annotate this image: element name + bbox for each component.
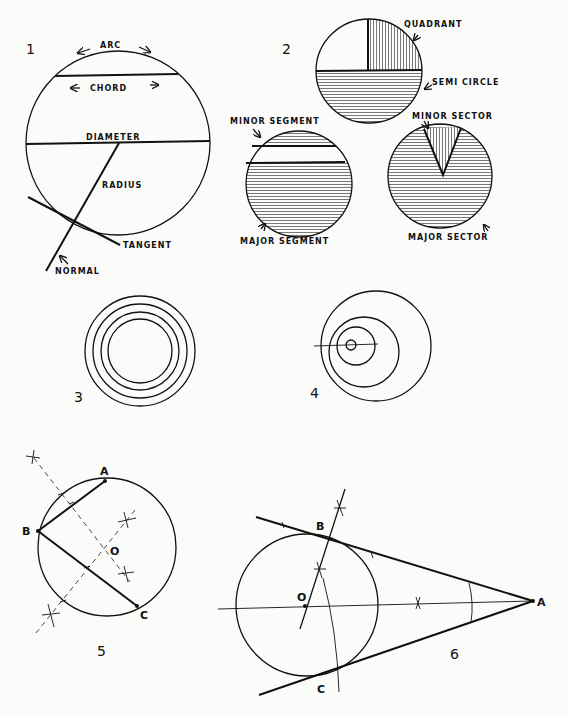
major-sector-label: MAJOR SECTOR [408, 233, 488, 242]
arc-arrow-right-icon [139, 47, 150, 52]
arc-mark-icon [416, 597, 420, 609]
arc-arrow-left-icon [78, 49, 90, 53]
radius-normal-line [46, 143, 119, 271]
arc-mark-icon [314, 562, 326, 578]
quadrant-semicircle-circle [316, 19, 422, 123]
figure-number-4: 4 [310, 385, 319, 401]
figure-number-1: 1 [26, 41, 35, 57]
normal-arrow-icon [60, 256, 68, 264]
point-c-label: C [317, 683, 325, 696]
tangent-line [28, 197, 120, 245]
radius-line-ob [300, 489, 345, 629]
figure-5-circumcircle-construction: A B C O 5 [22, 450, 176, 659]
geometry-diagram: 1 ARC CHORD DIAMETER RADIUS TANGENT NORM… [0, 0, 569, 715]
minor-sector-label: MINOR SECTOR [412, 112, 493, 121]
center-line-oa [218, 601, 533, 609]
chord-line [55, 74, 178, 76]
circle [236, 534, 378, 676]
tangent-label: TANGENT [123, 241, 172, 250]
point-a-label: A [537, 596, 546, 609]
point-b-label: B [316, 520, 324, 533]
sectors-circle [385, 120, 495, 230]
point-b-label: B [22, 525, 30, 538]
figure-number-2: 2 [282, 41, 291, 57]
minor-segment-label: MINOR SEGMENT [230, 117, 320, 126]
figure-4-eccentric-circles: 4 [310, 291, 431, 401]
figure-number-5: 5 [97, 643, 106, 659]
figure-1-circle-parts: 1 ARC CHORD DIAMETER RADIUS TANGENT NORM… [26, 41, 210, 276]
semi-circle-arrow-icon [425, 85, 432, 89]
major-sector-arrow-icon [484, 225, 488, 231]
tangent-line-ac [259, 601, 533, 695]
figure-number-3: 3 [74, 389, 83, 405]
figure-6-tangents-from-point: B A C O 6 [218, 489, 546, 696]
normal-label: NORMAL [55, 267, 100, 276]
construction-arc [323, 578, 339, 692]
chord-label: CHORD [90, 84, 127, 93]
figure-3-concentric-circles: 3 [74, 296, 195, 406]
semi-circle-label: SEMI CIRCLE [432, 78, 499, 87]
diameter-label: DIAMETER [86, 133, 140, 142]
point-a-label: A [100, 465, 109, 478]
figure-number-6: 6 [450, 646, 459, 662]
figure-2-circle-regions: 2 QUADRANT SEMI CIRCLE MINOR SEGMENT MAJ… [230, 19, 499, 246]
major-segment-label: MAJOR SEGMENT [240, 237, 329, 246]
segments-circle [240, 125, 360, 243]
arc-label: ARC [100, 41, 121, 50]
quadrant-arrow-icon [414, 35, 418, 40]
arc-mark-icon [26, 450, 40, 464]
tangent-line-ab [256, 517, 533, 601]
arc-mark-icon [42, 604, 60, 627]
radius-label: RADIUS [102, 181, 142, 190]
arc-mark-icon [334, 500, 346, 516]
minor-segment-arrow-icon [253, 129, 260, 137]
arc-mark-icon [118, 512, 136, 528]
quadrant-label: QUADRANT [404, 20, 462, 29]
major-segment-arrow-icon [261, 224, 265, 229]
point-c-label: C [140, 609, 148, 622]
arc-mark-icon [118, 566, 134, 582]
point-o-label: O [297, 591, 306, 604]
point-o-label: O [110, 545, 119, 558]
